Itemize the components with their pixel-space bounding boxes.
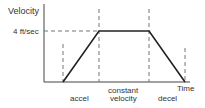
phase-decel-label: decel — [158, 94, 177, 103]
y-axis-label: Velocity — [8, 6, 40, 16]
velocity-time-diagram: Velocity 4 ft/sec Time accel constant ve… — [0, 0, 205, 108]
phase-accel-label: accel — [70, 94, 89, 103]
x-axis-label: Time — [177, 84, 195, 93]
y-tick-label: 4 ft/sec — [13, 27, 39, 36]
phase-constant-label-2: velocity — [110, 94, 137, 103]
velocity-profile-line — [63, 31, 185, 82]
